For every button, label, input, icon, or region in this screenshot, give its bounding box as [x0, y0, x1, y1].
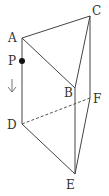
arrow-down-icon — [8, 79, 16, 92]
label-d: D — [7, 118, 17, 132]
edge-DE — [22, 124, 75, 174]
label-b: B — [64, 86, 73, 100]
edge-AC — [22, 16, 90, 38]
label-p: P — [8, 54, 16, 68]
label-a: A — [7, 31, 17, 45]
label-e: E — [66, 178, 75, 192]
prism-diagram: A B C D E F P — [0, 0, 109, 196]
label-c: C — [92, 4, 101, 18]
edge-DF-hidden — [22, 98, 90, 124]
edge-EF — [75, 98, 90, 174]
edge-BC — [75, 16, 90, 88]
point-p-dot — [19, 58, 25, 64]
edge-AB — [22, 38, 75, 88]
label-f: F — [93, 92, 101, 106]
